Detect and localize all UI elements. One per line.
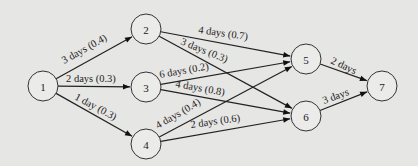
edge-1-3 [58,86,130,87]
node-6: 6 [291,101,321,131]
network-diagram: 3 days (0.4)2 days (0.3)1 day (0.3)4 day… [0,0,418,166]
node-label: 1 [40,81,46,93]
node-label: 3 [143,82,149,94]
edge-label: 2 days [329,55,358,76]
node-label: 6 [303,111,309,123]
edge-label: 3 days (0.4) [60,32,110,67]
node-label: 2 [143,24,149,36]
node-label: 5 [303,54,309,66]
arrow-line [58,86,130,87]
node-2: 2 [131,14,161,44]
edge-label: 2 days (0.3) [66,73,116,85]
node-5: 5 [291,44,321,74]
edge-4-5 [159,67,292,137]
node-label: 7 [379,81,385,93]
node-7: 7 [367,71,397,101]
edge-label: 3 days [321,86,350,106]
node-3: 3 [131,72,161,102]
edge-label: 6 days (0.2) [158,60,210,81]
edge-label: 4 days (0.8) [174,78,226,99]
node-1: 1 [28,71,58,101]
node-4: 4 [131,129,161,159]
node-label: 4 [143,139,149,151]
arrow-line [159,67,292,137]
